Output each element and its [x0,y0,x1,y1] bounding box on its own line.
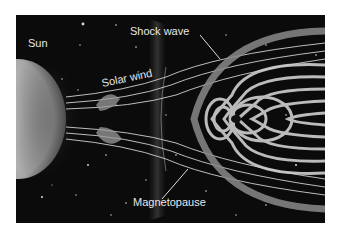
label-shock-wave: Shock wave [130,25,189,37]
diagram-frame: Sun Solar wind Shock wave Magnetopause [16,15,325,223]
label-sun: Sun [28,37,48,49]
label-magnetopause: Magnetopause [133,196,206,208]
magnetosphere-illustration [16,15,325,223]
shock-wave-band [149,25,167,215]
magnetosphere-field-lines [206,65,325,174]
